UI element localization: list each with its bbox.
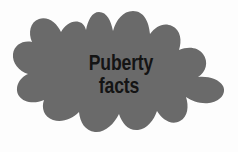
label-line-puberty: Puberty xyxy=(27,52,214,74)
label-line-facts: facts xyxy=(24,75,214,97)
blob-label: Puberty facts xyxy=(0,52,238,97)
image-canvas: Puberty facts xyxy=(0,0,238,152)
